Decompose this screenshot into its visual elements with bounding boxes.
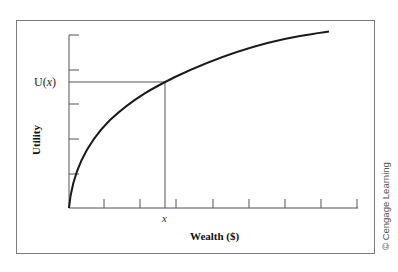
x-axis-label: Wealth ($) [190,230,240,243]
x-axis [69,199,358,208]
chart-frame [17,21,375,254]
y-axis-label: Utility [30,125,42,155]
y-marker-label: U(x) [34,75,56,89]
utility-chart: U(x) x Wealth ($) Utility [0,0,398,272]
utility-curve [69,32,329,209]
x-marker-label: x [161,212,167,224]
marker-lines [69,82,165,208]
copyright-credit: © Cengage Learning [380,162,391,250]
